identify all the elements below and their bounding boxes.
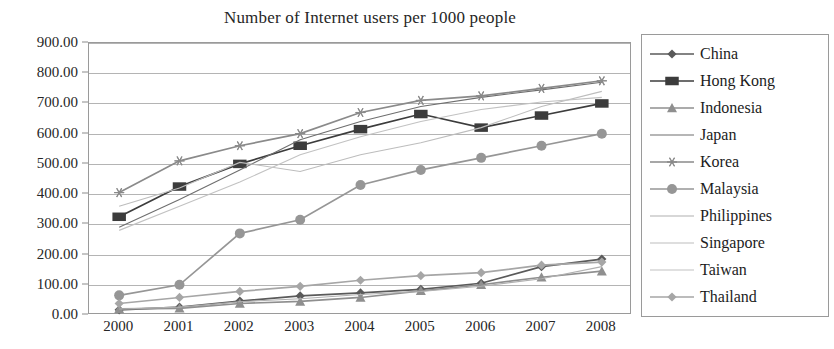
data-point: [356, 276, 365, 285]
data-point: [356, 108, 366, 117]
x-axis: 200020012002200320042005200620072008: [88, 314, 631, 346]
legend-label: Philippines: [696, 207, 772, 225]
data-point: [175, 157, 185, 166]
legend-label: Korea: [696, 153, 739, 171]
data-point: [235, 287, 244, 296]
x-tick-label: 2005: [405, 318, 435, 335]
data-point: [114, 188, 124, 197]
legend-key-line-icon: [648, 206, 696, 226]
data-point: [356, 180, 366, 190]
legend-label: Singapore: [696, 234, 765, 252]
data-point: [537, 141, 547, 151]
series-philippines: [119, 267, 602, 309]
data-point: [414, 110, 428, 119]
legend-key-star-icon: [648, 152, 696, 172]
y-tick-label: 600.00: [37, 124, 78, 141]
data-point: [175, 280, 185, 290]
legend-item-china[interactable]: China: [642, 40, 828, 67]
data-point: [597, 129, 607, 139]
legend-item-korea[interactable]: Korea: [642, 148, 828, 175]
data-point: [293, 142, 307, 151]
data-point: [476, 92, 486, 101]
y-tick-label: 300.00: [37, 215, 78, 232]
x-tick-label: 2004: [345, 318, 375, 335]
data-point: [115, 299, 124, 308]
y-tick-label: 700.00: [37, 94, 78, 111]
y-tick-label: 0.00: [52, 306, 78, 323]
data-point: [114, 290, 124, 300]
legend-item-philippines[interactable]: Philippines: [642, 202, 828, 229]
y-axis: 0.00100.00200.00300.00400.00500.00600.00…: [0, 42, 84, 314]
legend-key-diamond-icon: [648, 44, 696, 64]
data-point: [354, 125, 368, 134]
legend-key-circle-icon: [648, 179, 696, 199]
legend-item-japan[interactable]: Japan: [642, 121, 828, 148]
data-point: [416, 165, 426, 175]
legend-key-line-icon: [648, 125, 696, 145]
x-tick-label: 2001: [164, 318, 194, 335]
chart-legend: ChinaHong KongIndonesiaJapanKoreaMalaysi…: [641, 34, 829, 317]
plot-area: [88, 42, 631, 314]
x-tick-label: 2008: [586, 318, 616, 335]
y-tick-label: 800.00: [37, 64, 78, 81]
legend-key-triangle-icon: [648, 98, 696, 118]
y-tick-label: 500.00: [37, 154, 78, 171]
y-tick-label: 900.00: [37, 34, 78, 51]
x-tick-label: 2002: [224, 318, 254, 335]
legend-item-indonesia[interactable]: Indonesia: [642, 94, 828, 121]
legend-label: Indonesia: [696, 99, 762, 117]
y-tick-label: 200.00: [37, 245, 78, 262]
y-tick-label: 100.00: [37, 275, 78, 292]
series-layer: [89, 43, 632, 315]
data-point: [295, 215, 305, 225]
legend-item-hong-kong[interactable]: Hong Kong: [642, 67, 828, 94]
chart-title: Number of Internet users per 1000 people: [120, 8, 620, 28]
series-line: [119, 267, 602, 309]
data-point: [112, 213, 126, 222]
data-point: [597, 76, 607, 85]
legend-label: Malaysia: [696, 180, 759, 198]
series-line: [119, 103, 602, 216]
legend-key-diamond-icon: [648, 287, 696, 307]
data-point: [296, 282, 305, 291]
data-point: [235, 141, 245, 150]
x-tick-label: 2003: [284, 318, 314, 335]
legend-item-thailand[interactable]: Thailand: [642, 283, 828, 310]
data-point: [476, 153, 486, 163]
data-point: [175, 293, 184, 302]
data-point: [595, 99, 609, 108]
legend-label: Hong Kong: [696, 72, 775, 90]
x-tick-label: 2007: [526, 318, 556, 335]
data-point: [416, 96, 426, 105]
x-tick-label: 2000: [103, 318, 133, 335]
data-point: [535, 111, 549, 120]
legend-label: Thailand: [696, 288, 757, 306]
legend-label: China: [696, 45, 738, 63]
y-tick-label: 400.00: [37, 185, 78, 202]
legend-label: Japan: [696, 126, 736, 144]
data-point: [477, 268, 486, 277]
data-point: [537, 84, 547, 93]
legend-item-taiwan[interactable]: Taiwan: [642, 256, 828, 283]
data-point: [235, 228, 245, 238]
legend-label: Taiwan: [696, 261, 747, 279]
data-point: [416, 271, 425, 280]
data-point: [295, 129, 305, 138]
chart-container: Number of Internet users per 1000 people…: [0, 0, 834, 349]
legend-key-square-icon: [648, 71, 696, 91]
legend-item-malaysia[interactable]: Malaysia: [642, 175, 828, 202]
x-tick-label: 2006: [465, 318, 495, 335]
legend-key-line-icon: [648, 260, 696, 280]
legend-item-singapore[interactable]: Singapore: [642, 229, 828, 256]
legend-key-line-icon: [648, 233, 696, 253]
